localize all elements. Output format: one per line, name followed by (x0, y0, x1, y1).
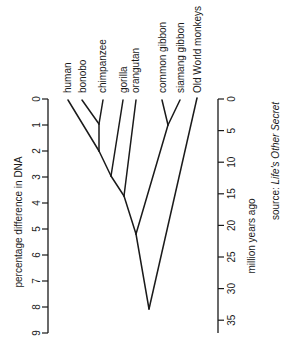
right-axis-ticks (218, 99, 224, 320)
leaf-label-gorilla: gorilla (118, 66, 129, 93)
right-tick-15: 15 (226, 188, 237, 200)
phylogenetic-tree-diagram: 0 1 2 3 4 5 6 7 8 9 percentage differenc… (0, 0, 294, 350)
left-tick-6: 6 (31, 252, 42, 258)
leaf-label-common-gibbon: common gibbon (157, 22, 168, 93)
left-tick-5: 5 (31, 226, 42, 232)
right-tick-25: 25 (226, 251, 237, 263)
right-axis: 0 5 10 15 20 25 30 35 million years ago (218, 96, 257, 333)
branch-chimpanzee (99, 100, 103, 124)
right-tick-20: 20 (226, 219, 237, 231)
branch-apes-stem (136, 234, 149, 309)
branch-siamang-gibbon (168, 100, 180, 125)
leaf-label-orangutan: orangutan (130, 48, 141, 93)
branch-gorilla (111, 100, 123, 176)
left-tick-1: 1 (31, 122, 42, 128)
right-tick-10: 10 (226, 156, 237, 168)
branch-orangutan (124, 100, 136, 196)
branch-hominini-stem (99, 151, 111, 176)
branch-bonobo (82, 100, 99, 124)
branch-human (68, 100, 99, 151)
leaf-labels: human bonobo chimpanzee gorilla oranguta… (62, 6, 203, 93)
branch-hominines-stem (111, 176, 124, 196)
branch-gibbons-stem (136, 125, 168, 234)
leaf-label-bonobo: bonobo (77, 59, 88, 93)
leaf-label-human: human (62, 62, 73, 93)
right-tick-30: 30 (226, 283, 237, 295)
branch-great-apes-stem (124, 196, 136, 234)
right-axis-label: million years ago (246, 198, 257, 273)
source-credit: source: Life's Other Secret (270, 101, 281, 220)
left-tick-3: 3 (31, 174, 42, 180)
left-tick-9: 9 (31, 330, 42, 336)
leaf-label-chimpanzee: chimpanzee (97, 39, 108, 93)
left-axis-label: percentage difference in DNA (13, 156, 24, 287)
source-prefix: source: (270, 184, 281, 220)
left-tick-7: 7 (31, 278, 42, 284)
tree-branches (68, 98, 197, 309)
leaf-label-siamang-gibbon: siamang gibbon (175, 22, 186, 93)
right-tick-5: 5 (226, 127, 237, 133)
right-tick-0: 0 (226, 96, 237, 102)
source-title: Life's Other Secret (270, 101, 281, 185)
left-tick-4: 4 (31, 200, 42, 206)
left-axis: 0 1 2 3 4 5 6 7 8 9 percentage differenc… (13, 96, 48, 336)
left-axis-ticks (42, 99, 48, 333)
left-tick-0: 0 (31, 96, 42, 102)
right-tick-35: 35 (226, 314, 237, 326)
leaf-label-old-world-monkeys: Old World monkeys (192, 6, 203, 93)
branch-old-world-monkeys (149, 98, 197, 309)
left-tick-8: 8 (31, 304, 42, 310)
left-tick-2: 2 (31, 148, 42, 154)
branch-common-gibbon (162, 100, 168, 125)
